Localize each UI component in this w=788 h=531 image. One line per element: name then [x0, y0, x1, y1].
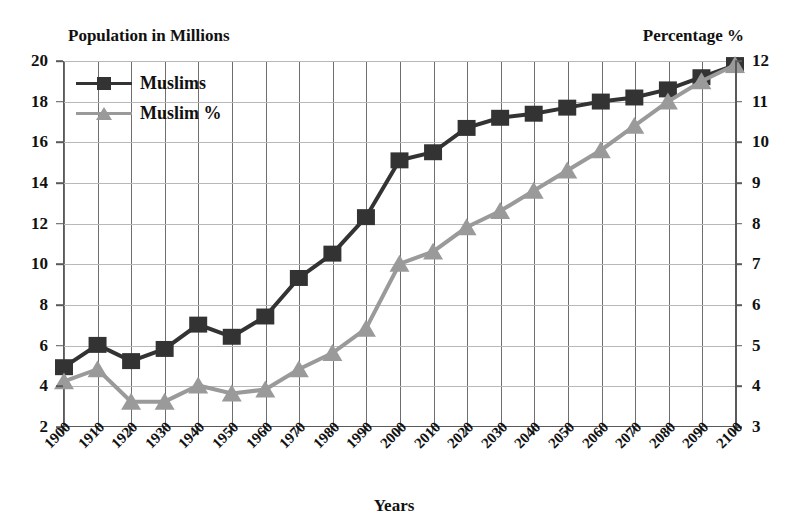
right-axis-tick-label: 8	[752, 214, 786, 234]
data-point-square-marker	[89, 337, 107, 353]
right-axis-tick-mark	[735, 101, 742, 103]
data-point-square-marker	[256, 309, 274, 325]
data-point-square-marker	[189, 317, 207, 333]
left-axis-tick-label: 16	[8, 132, 48, 152]
data-point-triangle-marker	[457, 218, 477, 235]
left-axis-tick-label: 10	[8, 254, 48, 274]
data-point-square-marker	[391, 152, 409, 168]
data-point-square-marker	[558, 100, 576, 116]
left-axis-tick-label: 8	[8, 295, 48, 315]
data-point-square-marker	[592, 94, 610, 110]
left-axis-tick-label: 20	[8, 51, 48, 71]
left-axis-tick-label: 2	[8, 417, 48, 437]
legend-label-muslims: Muslims	[140, 73, 206, 94]
legend-marker-square-icon	[76, 76, 132, 90]
data-point-triangle-marker	[289, 360, 309, 377]
right-axis-tick-mark	[735, 264, 742, 266]
data-point-triangle-marker	[88, 360, 108, 377]
right-axis-tick-label: 7	[752, 254, 786, 274]
data-point-square-marker	[290, 270, 308, 286]
legend-item-muslim-percent[interactable]: Muslim %	[76, 98, 266, 128]
right-axis-tick-label: 11	[752, 92, 786, 112]
left-axis-tick-mark	[56, 101, 63, 103]
left-axis-tick-label: 4	[8, 376, 48, 396]
right-axis-tick-mark	[735, 304, 742, 306]
left-axis-tick-mark	[56, 60, 63, 62]
data-point-square-marker	[625, 90, 643, 106]
data-point-square-marker	[491, 110, 509, 126]
left-axis-title: Population in Millions	[68, 26, 230, 46]
right-axis-line	[735, 61, 737, 427]
left-axis-tick-mark	[56, 182, 63, 184]
data-point-square-marker	[156, 341, 174, 357]
left-axis-tick-mark	[56, 223, 63, 225]
x-axis-title: Years	[0, 496, 788, 516]
right-axis-tick-label: 12	[752, 51, 786, 71]
right-axis-tick-label: 3	[752, 417, 786, 437]
right-axis-tick-label: 6	[752, 295, 786, 315]
right-axis-title: Percentage %	[643, 26, 744, 46]
left-axis-tick-mark	[56, 386, 63, 388]
legend-item-muslims[interactable]: Muslims	[76, 68, 266, 98]
legend: Muslims Muslim %	[76, 68, 266, 128]
data-point-square-marker	[458, 120, 476, 136]
data-point-square-marker	[323, 246, 341, 262]
data-point-square-marker	[223, 329, 241, 345]
right-axis-tick-mark	[735, 142, 742, 144]
right-axis-tick-mark	[735, 60, 742, 62]
chart-page: Population in Millions Percentage % Year…	[0, 0, 788, 531]
right-axis-tick-mark	[735, 345, 742, 347]
right-axis-tick-label: 10	[752, 132, 786, 152]
right-axis-tick-mark	[735, 223, 742, 225]
right-axis-tick-label: 4	[752, 376, 786, 396]
left-axis-tick-label: 14	[8, 173, 48, 193]
left-axis-tick-mark	[56, 264, 63, 266]
right-axis-tick-mark	[735, 182, 742, 184]
legend-label-muslim-percent: Muslim %	[140, 103, 222, 124]
left-axis-tick-mark	[56, 304, 63, 306]
left-axis-tick-mark	[56, 142, 63, 144]
left-axis-tick-mark	[56, 345, 63, 347]
data-point-square-marker	[122, 353, 140, 369]
left-axis-tick-label: 12	[8, 214, 48, 234]
data-point-square-marker	[525, 106, 543, 122]
right-axis-tick-label: 9	[752, 173, 786, 193]
data-point-triangle-marker	[188, 376, 208, 393]
right-axis-tick-label: 5	[752, 336, 786, 356]
left-axis-tick-label: 18	[8, 92, 48, 112]
left-axis-tick-label: 6	[8, 336, 48, 356]
legend-marker-triangle-icon	[76, 106, 132, 120]
data-point-triangle-marker	[356, 320, 376, 337]
data-point-square-marker	[424, 144, 442, 160]
right-axis-tick-mark	[735, 386, 742, 388]
data-point-square-marker	[357, 209, 375, 225]
